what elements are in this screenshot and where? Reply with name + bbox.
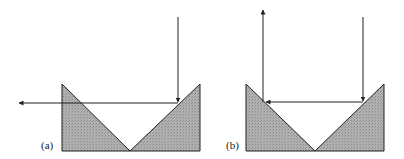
prism-right <box>130 84 200 151</box>
panel-a: (a) <box>19 17 200 152</box>
prism-left <box>62 84 130 151</box>
prism-right <box>315 84 384 151</box>
panel-label-a: (a) <box>41 139 54 152</box>
prism-diagram: (a) (b) <box>0 0 404 159</box>
panel-b: (b) <box>226 10 384 152</box>
prism-left <box>246 84 315 151</box>
panel-label-b: (b) <box>226 139 239 152</box>
